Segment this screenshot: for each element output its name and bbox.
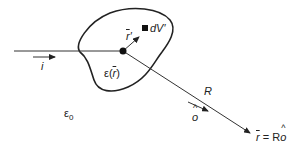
distance-label: R [204, 86, 212, 97]
scattered-ray [123, 51, 250, 133]
origin-point [120, 48, 127, 55]
scattered-direction-label: o^ [192, 112, 198, 123]
scattering-diagram: i r′ dV′ ε(r) ε0 R o^ r = Ro^ [0, 0, 297, 147]
observation-point-label: r = Ro^ [256, 132, 286, 143]
volume-element-label: dV′ [150, 23, 166, 34]
r-prime-label: r′ [126, 31, 132, 42]
volume-element-square [142, 25, 148, 31]
diagram-graphics [0, 0, 297, 147]
background-permittivity-label: ε0 [64, 108, 73, 122]
incident-direction-label: i [41, 61, 43, 72]
region-permittivity-label: ε(r) [104, 68, 120, 79]
